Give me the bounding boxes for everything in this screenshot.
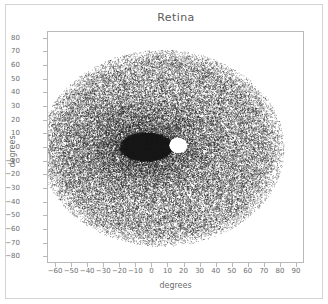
page-title: Retina (47, 11, 305, 24)
y-tick-mark-16 (43, 256, 47, 257)
y-tick-mark-0 (43, 38, 47, 39)
y-axis-label: degrees (8, 122, 17, 182)
y-tick-mark-1 (43, 51, 47, 52)
y-tick-label-12: −40 (0, 198, 20, 206)
y-tick-mark-5 (43, 106, 47, 107)
x-tick-label-15: 90 (281, 267, 311, 275)
y-tick-label-1: 70 (0, 47, 20, 55)
y-tick-mark-14 (43, 229, 47, 230)
y-tick-mark-10 (43, 174, 47, 175)
y-tick-label-2: 60 (0, 61, 20, 69)
plot-area (47, 31, 304, 263)
scatter-canvas (48, 32, 304, 263)
y-tick-mark-6 (43, 120, 47, 121)
x-axis-label: degrees (47, 281, 304, 290)
y-tick-label-15: −70 (0, 239, 20, 247)
y-tick-mark-12 (43, 202, 47, 203)
y-tick-mark-13 (43, 215, 47, 216)
y-tick-mark-7 (43, 133, 47, 134)
y-tick-mark-15 (43, 243, 47, 244)
y-tick-label-13: −50 (0, 211, 20, 219)
y-tick-label-14: −60 (0, 225, 20, 233)
y-tick-mark-8 (43, 147, 47, 148)
y-tick-label-16: −80 (0, 252, 20, 260)
y-tick-label-4: 40 (0, 88, 20, 96)
y-tick-label-11: −30 (0, 184, 20, 192)
y-tick-mark-2 (43, 65, 47, 66)
x-tick-mark-15 (296, 263, 297, 267)
y-tick-mark-11 (43, 188, 47, 189)
y-tick-label-5: 30 (0, 102, 20, 110)
y-tick-label-0: 80 (0, 34, 20, 42)
y-tick-mark-3 (43, 79, 47, 80)
retina-scatter-figure: Retina 80706050403020100−10−20−30−40−50−… (0, 0, 328, 304)
y-tick-mark-9 (43, 161, 47, 162)
y-tick-label-3: 50 (0, 75, 20, 83)
y-tick-mark-4 (43, 92, 47, 93)
